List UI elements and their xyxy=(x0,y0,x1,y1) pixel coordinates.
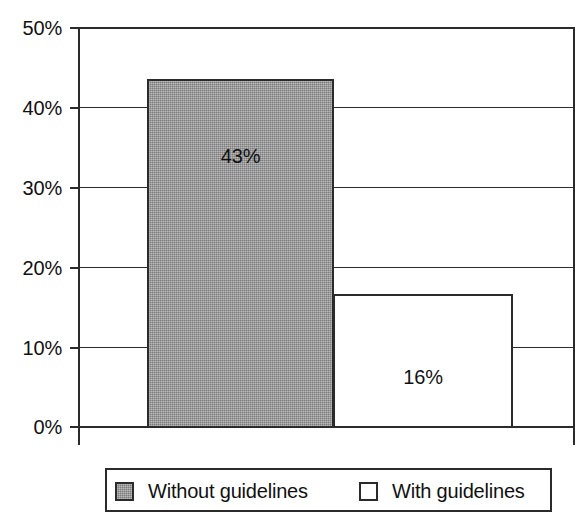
legend-item-with-guidelines[interactable]: With guidelines xyxy=(359,480,525,502)
y-tick-label-0: 0% xyxy=(2,417,62,437)
y-tick-label-30: 30% xyxy=(2,178,62,198)
tick-10 xyxy=(70,347,79,349)
legend-label-with-guidelines: With guidelines xyxy=(392,481,525,501)
tick-50 xyxy=(70,27,79,29)
legend: Without guidelines With guidelines xyxy=(105,468,552,512)
y-tick-label-10: 10% xyxy=(2,338,62,358)
tick-0 xyxy=(70,426,79,428)
tick-30 xyxy=(70,187,79,189)
x-axis-baseline xyxy=(70,426,575,428)
bar-value-label-without-guidelines: 43% xyxy=(147,146,334,166)
legend-swatch-white-icon xyxy=(359,482,378,501)
bar-chart: 50% 40% 30% 20% 10% 0% 43% 16% Without g… xyxy=(0,0,585,521)
y-tick-label-50: 50% xyxy=(2,18,62,38)
plot-right-edge xyxy=(573,27,575,445)
tick-40 xyxy=(70,107,79,109)
legend-item-without-guidelines[interactable]: Without guidelines xyxy=(115,480,308,502)
tick-20 xyxy=(70,267,79,269)
y-axis-line xyxy=(78,27,80,445)
legend-label-without-guidelines: Without guidelines xyxy=(148,481,308,501)
y-tick-label-40: 40% xyxy=(2,98,62,118)
bar-value-label-with-guidelines: 16% xyxy=(333,367,513,387)
legend-swatch-gray-icon xyxy=(115,482,134,501)
y-tick-label-20: 20% xyxy=(2,258,62,278)
